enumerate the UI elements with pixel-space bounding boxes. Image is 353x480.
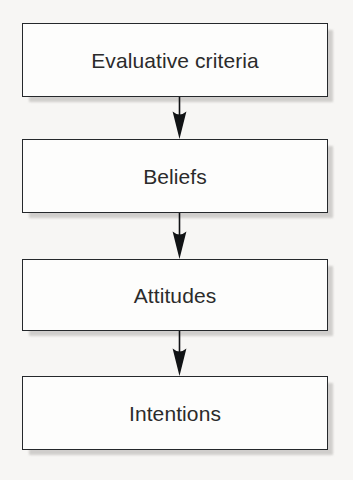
flowchart-node-intentions[interactable]: Intentions xyxy=(22,376,328,450)
arrow-down-icon-edge-1 xyxy=(173,97,187,139)
node-label: Beliefs xyxy=(143,166,207,187)
node-label: Intentions xyxy=(129,403,221,424)
arrow-down-icon-edge-3 xyxy=(173,331,187,376)
flowchart-node-evaluative-criteria[interactable]: Evaluative criteria xyxy=(22,23,328,97)
node-label: Evaluative criteria xyxy=(91,50,259,71)
flowchart-diagram: Evaluative criteria Beliefs Attitudes In… xyxy=(0,0,353,480)
flowchart-node-beliefs[interactable]: Beliefs xyxy=(22,139,328,213)
flowchart-node-attitudes[interactable]: Attitudes xyxy=(22,259,328,331)
node-label: Attitudes xyxy=(134,285,217,306)
arrow-down-icon-edge-2 xyxy=(173,213,187,259)
